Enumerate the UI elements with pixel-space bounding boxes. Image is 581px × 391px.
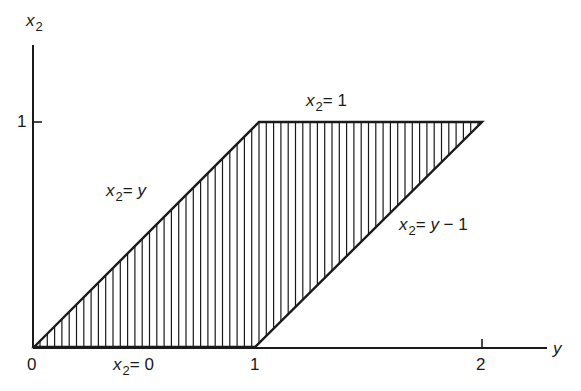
line-label-top-rhs: = 1: [323, 91, 347, 110]
line-label-left-var: x: [106, 181, 115, 200]
line-label-top: x2= 1: [306, 92, 347, 109]
y-axis-label-var: x: [26, 11, 35, 30]
x-tick-label-1: 1: [250, 356, 259, 373]
region-diagram: [0, 0, 581, 391]
line-label-right-var: x: [399, 215, 408, 234]
y-tick-label-1: 1: [17, 113, 26, 130]
x-tick-label-2: 2: [476, 356, 485, 373]
line-label-right-sub: 2: [409, 223, 416, 238]
line-label-left-sub: 2: [116, 189, 123, 204]
line-label-bottom: x2= 0: [113, 356, 154, 373]
line-label-bottom-sub: 2: [123, 363, 130, 378]
line-label-bottom-rhs: = 0: [130, 355, 154, 374]
line-label-left-rhs-var: y: [137, 181, 146, 200]
line-label-bottom-var: x: [113, 355, 122, 374]
line-label-left-eq: =: [123, 181, 138, 200]
y-axis-label: x2: [26, 12, 43, 29]
line-label-right-eq: =: [416, 215, 431, 234]
x-axis-label: y: [553, 340, 562, 357]
line-label-top-var: x: [306, 91, 315, 110]
line-label-right: x2= y − 1: [399, 216, 468, 233]
line-label-left: x2= y: [106, 182, 146, 199]
y-axis-label-sub: 2: [36, 19, 43, 34]
line-label-right-rhs-post: − 1: [439, 215, 468, 234]
line-label-top-sub: 2: [316, 99, 323, 114]
x-tick-label-0: 0: [27, 356, 36, 373]
line-label-right-rhs-var: y: [430, 215, 439, 234]
